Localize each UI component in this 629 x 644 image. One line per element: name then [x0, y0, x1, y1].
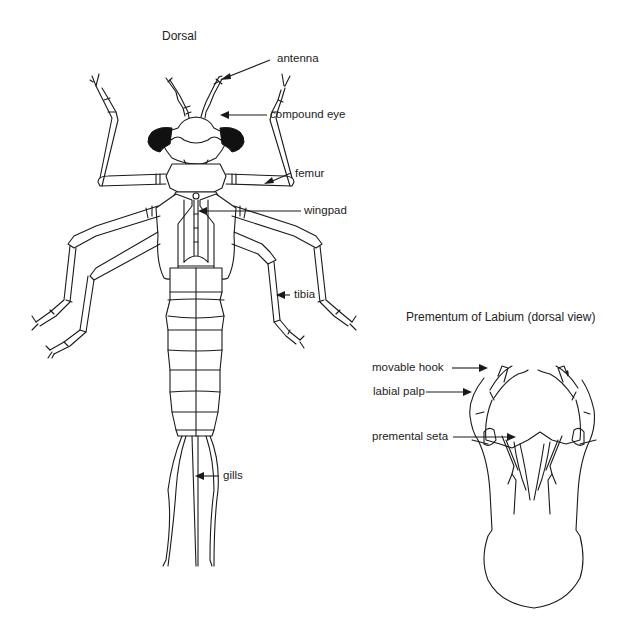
hindleg-left — [46, 232, 160, 358]
label-femur: femur — [295, 168, 324, 180]
head — [148, 117, 244, 164]
antenna-left — [166, 78, 191, 118]
label-labial-palp: labial palp — [373, 386, 425, 398]
midleg-right — [232, 206, 356, 330]
label-premental-seta: premental seta — [372, 431, 448, 443]
arrow-antenna — [220, 60, 270, 80]
arrow-compound-eye — [220, 111, 267, 119]
label-antenna: antenna — [277, 53, 319, 65]
label-gills: gills — [223, 470, 243, 482]
prementum-view-title: Prementum of Labium (dorsal view) — [406, 311, 595, 323]
dorsal-view-title: Dorsal — [162, 30, 197, 42]
label-wingpad: wingpad — [304, 205, 347, 217]
prementum-illustration — [470, 366, 596, 608]
arrow-movable-hook — [452, 364, 488, 372]
gills — [163, 436, 218, 566]
label-tibia: tibia — [294, 289, 315, 301]
thorax-wingpads — [156, 192, 236, 279]
label-movable-hook: movable hook — [372, 362, 444, 374]
arrow-gills — [195, 472, 219, 480]
arrow-labial-palp — [426, 388, 472, 396]
abdomen — [166, 268, 224, 436]
arrow-femur — [264, 173, 291, 184]
prothorax — [166, 164, 226, 192]
antenna-right — [201, 76, 222, 118]
label-compound-eye: compound eye — [270, 109, 345, 121]
